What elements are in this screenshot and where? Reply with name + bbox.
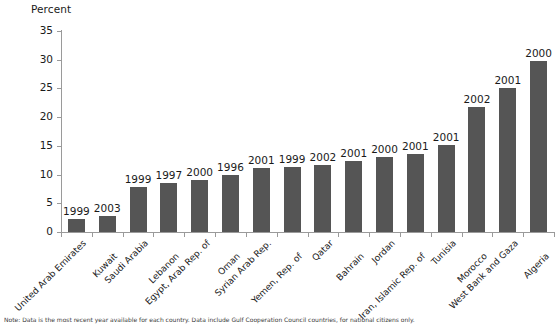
bar-value-label: 2000 <box>186 166 213 178</box>
x-axis-tick-mark <box>369 233 370 237</box>
bar-value-label: 2003 <box>94 202 121 214</box>
x-axis-tick-mark <box>61 233 62 237</box>
x-axis-tick-mark <box>153 233 154 237</box>
bar[interactable] <box>68 219 85 232</box>
plot-area: 1999200319991997200019962001199920022001… <box>61 31 554 232</box>
bar[interactable] <box>438 145 455 232</box>
bar-value-label: 1999 <box>63 205 90 217</box>
bar-group[interactable]: 2001 <box>345 31 362 232</box>
x-axis-tick-mark <box>400 233 401 237</box>
bar-value-label: 2001 <box>340 147 367 159</box>
bar[interactable] <box>160 183 177 232</box>
bar-group[interactable]: 2000 <box>191 31 208 232</box>
y-axis-title: Percent <box>31 3 71 15</box>
x-axis-category-label: Tunisia <box>429 238 458 267</box>
x-axis-tick-mark <box>523 233 524 237</box>
x-axis-tick-mark <box>215 233 216 237</box>
bar[interactable] <box>499 88 516 232</box>
bar[interactable] <box>130 187 147 232</box>
x-axis-tick-mark <box>308 233 309 237</box>
y-axis-tick-label: 35 <box>29 24 53 36</box>
x-axis-tick-mark <box>338 233 339 237</box>
bar[interactable] <box>530 61 547 232</box>
x-axis-category-label: Bahrain <box>334 251 366 283</box>
x-axis-tick-mark <box>554 233 555 237</box>
bar[interactable] <box>253 168 270 232</box>
bar-value-label: 2001 <box>433 131 460 143</box>
x-axis-category-label: Algeria <box>521 251 550 280</box>
bar-value-label: 1997 <box>155 169 182 181</box>
x-axis-category-label: United Arab Emirates <box>13 238 88 313</box>
y-axis-tick-label: 30 <box>29 53 53 65</box>
bar-group[interactable]: 2003 <box>99 31 116 232</box>
bar-group[interactable]: 2001 <box>438 31 455 232</box>
bar-group[interactable]: 1999 <box>68 31 85 232</box>
x-axis-category-label: Jordan <box>369 238 396 265</box>
bar[interactable] <box>191 180 208 232</box>
bar-value-label: 2002 <box>310 151 337 163</box>
bar-value-label: 2001 <box>494 74 521 86</box>
bar-group[interactable]: 1999 <box>130 31 147 232</box>
bar-group[interactable]: 1996 <box>222 31 239 232</box>
bar-value-label: 1999 <box>125 173 152 185</box>
y-axis-tick-label: 5 <box>29 196 53 208</box>
bar[interactable] <box>99 216 116 232</box>
bar[interactable] <box>376 157 393 232</box>
bar[interactable] <box>222 175 239 232</box>
x-axis-category-label: Qatar <box>310 238 335 263</box>
x-axis-tick-mark <box>277 233 278 237</box>
bar-group[interactable]: 2001 <box>499 31 516 232</box>
x-axis-tick-mark <box>462 233 463 237</box>
bar-value-label: 2001 <box>248 154 275 166</box>
bar-group[interactable]: 2000 <box>376 31 393 232</box>
bar[interactable] <box>345 161 362 232</box>
bar-value-label: 2002 <box>464 93 491 105</box>
x-axis-tick-mark <box>492 233 493 237</box>
bar-group[interactable]: 2001 <box>253 31 270 232</box>
bar-group[interactable]: 1997 <box>160 31 177 232</box>
bar-chart: Percent 05101520253035 19992003199919972… <box>0 0 559 324</box>
y-axis-tick-label: 10 <box>29 168 53 180</box>
bar-value-label: 1999 <box>279 153 306 165</box>
y-axis-tick-label: 15 <box>29 139 53 151</box>
bar-group[interactable]: 2001 <box>407 31 424 232</box>
chart-footnote: Note: Data is the most recent year avail… <box>4 316 557 324</box>
bar[interactable] <box>468 107 485 232</box>
bar-value-label: 2001 <box>402 140 429 152</box>
x-axis-tick-mark <box>123 233 124 237</box>
y-axis-tick-label: 0 <box>29 225 53 237</box>
x-axis-tick-mark <box>92 233 93 237</box>
bar-group[interactable]: 1999 <box>284 31 301 232</box>
x-axis-tick-mark <box>246 233 247 237</box>
x-axis-category-label: Iran, Islamic Rep. of <box>357 251 427 321</box>
bar[interactable] <box>284 167 301 232</box>
bar[interactable] <box>314 165 331 232</box>
bar-group[interactable]: 2002 <box>468 31 485 232</box>
y-axis-tick-label: 20 <box>29 110 53 122</box>
bar-value-label: 2000 <box>525 47 552 59</box>
bar-value-label: 2000 <box>371 143 398 155</box>
x-axis-tick-mark <box>431 233 432 237</box>
bar-group[interactable]: 2002 <box>314 31 331 232</box>
x-axis-tick-mark <box>184 233 185 237</box>
bar-group[interactable]: 2000 <box>530 31 547 232</box>
bar-value-label: 1996 <box>217 161 244 173</box>
bar[interactable] <box>407 154 424 232</box>
y-axis-tick-label: 25 <box>29 81 53 93</box>
